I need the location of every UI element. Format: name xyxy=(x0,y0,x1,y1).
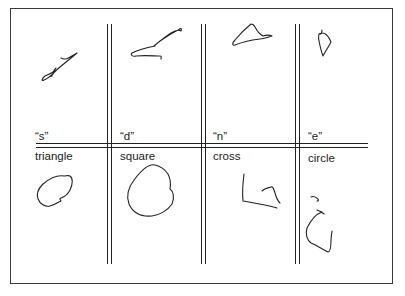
drawing-letter-e xyxy=(319,30,331,56)
drawing-cross xyxy=(243,174,280,208)
drawing-letter-d xyxy=(131,29,181,59)
drawing-letter-s xyxy=(42,53,77,81)
drawing-square xyxy=(128,165,174,216)
handwritten-drawings xyxy=(0,0,405,296)
drawing-triangle xyxy=(37,176,72,207)
drawing-letter-n xyxy=(233,24,272,45)
drawing-circle xyxy=(306,197,332,252)
